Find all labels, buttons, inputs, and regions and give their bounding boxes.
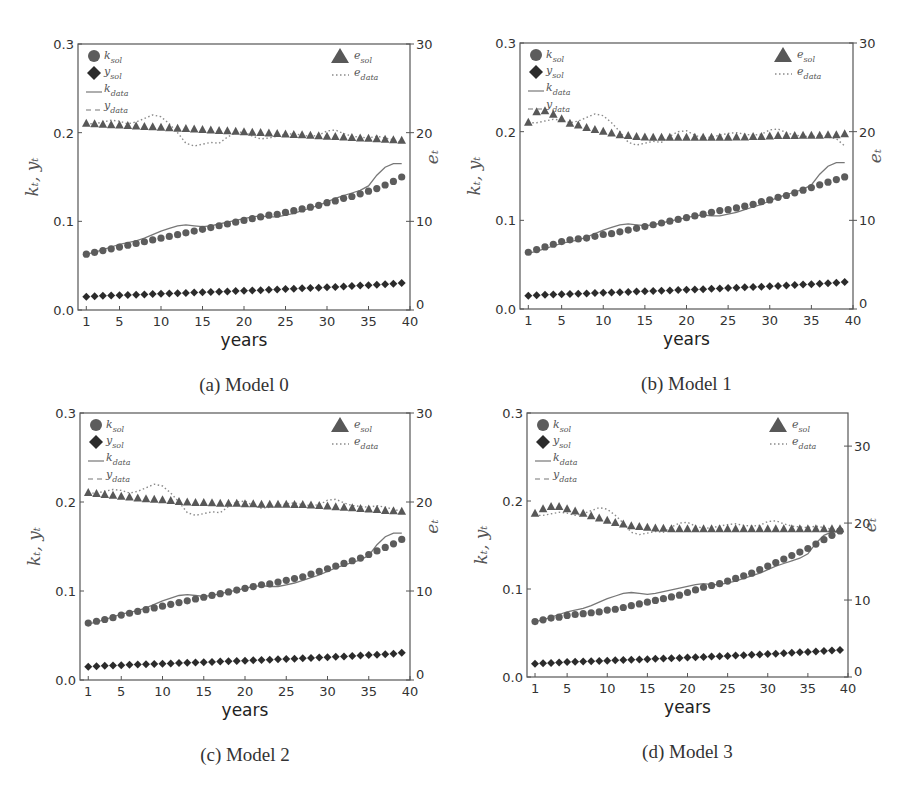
- k-data-line: [535, 532, 840, 622]
- diamond-marker-icon: [536, 435, 550, 449]
- x-tick-label: 1: [531, 681, 539, 696]
- triangle-marker-icon: [769, 417, 787, 432]
- x-tick-label: 20: [679, 681, 696, 696]
- x-tick-label: 15: [639, 681, 656, 696]
- y-sol-markers: [531, 646, 844, 668]
- plot-frame: [527, 413, 848, 677]
- legend-e-data: edata: [792, 435, 817, 451]
- legend-right: esoledata: [769, 417, 817, 451]
- x-tick-label: 40: [840, 681, 857, 696]
- legend-e-sol: esol: [792, 418, 810, 434]
- x-tick-label: 30: [759, 681, 776, 696]
- y-right-tick-label: 10: [854, 593, 871, 608]
- y-tick-label: 0.3: [502, 406, 523, 421]
- x-tick-label: 25: [719, 681, 736, 696]
- y-right-tick-label: 30: [854, 439, 871, 454]
- x-tick-label: 5: [563, 681, 571, 696]
- y-tick-label: 0.0: [502, 670, 523, 685]
- x-axis-label: years: [664, 697, 711, 717]
- k-sol-markers: [531, 527, 843, 625]
- panel-caption: (d) Model 3: [527, 741, 848, 763]
- x-tick-label: 35: [800, 681, 817, 696]
- legend-left: ksolysolkdataydata: [535, 418, 578, 484]
- chart-panel-d: 15101520253035400.00.10.20.30102030years…: [0, 0, 918, 804]
- e-sol-markers: [531, 502, 845, 532]
- y-tick-label: 0.1: [502, 582, 523, 597]
- legend-k-sol: ksol: [553, 418, 572, 434]
- circle-marker-icon: [537, 419, 549, 431]
- y-tick-label: 0.2: [502, 494, 523, 509]
- x-tick-label: 10: [599, 681, 616, 696]
- y-right-tick-label: 0: [854, 664, 862, 679]
- legend-k-data: kdata: [553, 451, 578, 467]
- legend-y-data: ydata: [552, 468, 577, 484]
- legend-y-sol: ysol: [552, 434, 571, 450]
- y-right-axis-label: eₜ: [860, 517, 880, 532]
- y-axis-label: kₜ, yₜ: [471, 525, 491, 565]
